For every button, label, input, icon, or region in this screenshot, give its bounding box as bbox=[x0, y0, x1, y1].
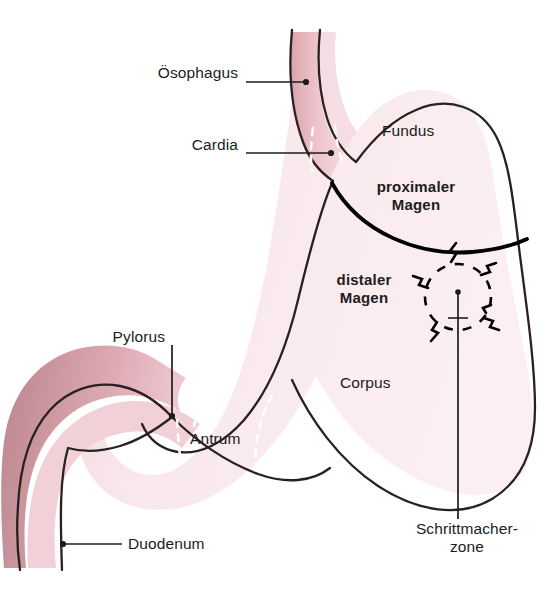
stomach-diagram-svg bbox=[0, 0, 557, 597]
label-oesophagus-text: Ösophagus bbox=[158, 64, 238, 81]
label-cardia: Cardia bbox=[78, 136, 238, 154]
leader-dot-pylorus bbox=[169, 413, 175, 419]
label-fundus-text: Fundus bbox=[382, 122, 434, 139]
label-oesophagus: Ösophagus bbox=[78, 64, 238, 82]
label-distaler-magen-line1: distaler bbox=[313, 271, 415, 289]
label-schrittmacherzone: Schrittmacher- zone bbox=[392, 520, 542, 557]
label-corpus-text: Corpus bbox=[340, 374, 391, 391]
label-antrum: Antrum bbox=[190, 430, 290, 448]
label-cardia-text: Cardia bbox=[192, 136, 238, 153]
label-schrittmacherzone-line1: Schrittmacher- bbox=[392, 520, 542, 538]
label-proximaler-magen-line2: Magen bbox=[352, 196, 480, 214]
label-pylorus: Pylorus bbox=[40, 328, 165, 346]
label-distaler-magen: distaler Magen bbox=[313, 271, 415, 306]
label-schrittmacherzone-line2: zone bbox=[392, 538, 542, 556]
leader-dot-duodenum bbox=[60, 541, 66, 547]
stomach-anatomy-figure: Ösophagus Cardia Pylorus Duodenum Schrit… bbox=[0, 0, 557, 597]
label-proximaler-magen-line1: proximaler bbox=[352, 178, 480, 196]
label-pylorus-text: Pylorus bbox=[113, 328, 165, 345]
label-duodenum: Duodenum bbox=[128, 535, 298, 553]
label-corpus: Corpus bbox=[340, 374, 440, 392]
label-duodenum-text: Duodenum bbox=[128, 535, 205, 552]
leader-dot-oesophagus bbox=[303, 79, 309, 85]
label-fundus: Fundus bbox=[382, 122, 482, 140]
leader-dot-schrittmacherzone bbox=[455, 289, 461, 295]
label-proximaler-magen: proximaler Magen bbox=[352, 178, 480, 213]
leader-dot-cardia bbox=[328, 150, 334, 156]
label-distaler-magen-line2: Magen bbox=[313, 289, 415, 307]
label-antrum-text: Antrum bbox=[190, 430, 241, 447]
